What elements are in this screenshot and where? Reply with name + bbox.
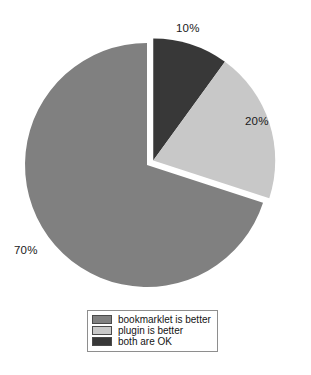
legend-item-label: both are OK — [118, 337, 172, 348]
legend-item-plugin: plugin is better — [92, 326, 213, 337]
legend-item-bookmarklet: bookmarklet is better — [92, 315, 213, 326]
legend-swatch-icon — [92, 315, 112, 324]
chart-legend: bookmarklet is better plugin is better b… — [87, 310, 218, 352]
pie-label-20-percent: 20% — [245, 115, 269, 127]
legend-swatch-icon — [92, 326, 112, 335]
legend-item-label: bookmarklet is better — [118, 315, 211, 326]
pie-label-10-percent: 10% — [176, 22, 200, 34]
legend-swatch-icon — [92, 337, 112, 346]
pie-label-70-percent: 70% — [14, 244, 38, 256]
pie-chart: 10% 20% 70% bookmarklet is better plugin… — [0, 0, 311, 375]
legend-item-label: plugin is better — [118, 326, 183, 337]
legend-item-both-ok: both are OK — [92, 337, 213, 348]
